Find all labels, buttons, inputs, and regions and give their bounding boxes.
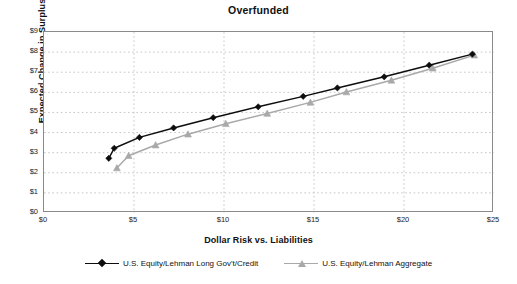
y-tick-label: $9 (4, 26, 38, 35)
x-tick-label: $0 (23, 215, 63, 224)
x-tick-label: $25 (473, 215, 513, 224)
plot-area (43, 31, 493, 212)
legend-item: U.S. Equity/Lehman Long Gov't/Credit (85, 258, 258, 268)
data-point-diamond-marker (381, 74, 387, 80)
chart-title: Overfunded (0, 4, 517, 16)
x-tick-label: $20 (383, 215, 423, 224)
legend-item: U.S. Equity/Lehman Aggregate (284, 258, 432, 268)
data-point-diamond-marker (210, 115, 216, 121)
data-point-diamond-marker (106, 155, 112, 161)
data-point-diamond-marker (111, 145, 117, 151)
y-tick-label: $3 (4, 147, 38, 156)
legend-diamond-marker-icon (85, 258, 119, 268)
y-tick-label: $1 (4, 187, 38, 196)
legend-item-label: U.S. Equity/Lehman Aggregate (322, 259, 432, 268)
chart-legend: U.S. Equity/Lehman Long Gov't/Credit U.S… (0, 258, 517, 268)
x-tick-label: $10 (203, 215, 243, 224)
y-tick-label: $8 (4, 46, 38, 55)
y-tick-label: $5 (4, 106, 38, 115)
legend-item-label: U.S. Equity/Lehman Long Gov't/Credit (123, 259, 258, 268)
data-point-diamond-marker (255, 104, 261, 110)
data-point-diamond-marker (334, 85, 340, 91)
chart-figure: Overfunded Expected Change in Surplus Do… (0, 0, 517, 284)
data-point-diamond-marker (171, 125, 177, 131)
legend-triangle-marker-icon (284, 258, 318, 268)
y-tick-label: $7 (4, 66, 38, 75)
y-tick-label: $4 (4, 127, 38, 136)
x-tick-label: $5 (113, 215, 153, 224)
y-tick-label: $2 (4, 167, 38, 176)
x-tick-label: $15 (293, 215, 333, 224)
plot-canvas (44, 32, 494, 213)
x-axis-title: Dollar Risk vs. Liabilities (0, 235, 517, 245)
data-point-diamond-marker (136, 134, 142, 140)
data-point-diamond-marker (300, 93, 306, 99)
y-tick-label: $6 (4, 86, 38, 95)
